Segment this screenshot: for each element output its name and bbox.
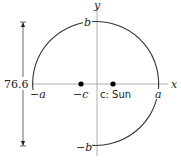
vertex-label-neg-a: −a <box>30 88 46 101</box>
vertex-label-neg-b: −b <box>76 141 92 154</box>
focus-label-neg-c: −c <box>73 88 88 101</box>
y-axis-label: y <box>93 0 101 12</box>
dimension-label: 76.6 <box>4 78 29 91</box>
focus-label-sun: c: Sun <box>100 89 131 100</box>
ellipse-diagram: x y 76.6 b −b −a a −c c: Sun <box>0 0 181 164</box>
arrowhead-bottom-icon <box>21 141 25 146</box>
arrowhead-top-icon <box>21 22 25 27</box>
focus-right-sun-dot <box>110 81 115 86</box>
focus-left-dot <box>78 81 83 86</box>
ellipse-orbit <box>33 21 159 145</box>
vertex-label-b: b <box>84 16 91 29</box>
vertex-label-a: a <box>155 88 162 101</box>
x-axis-label: x <box>171 78 178 91</box>
